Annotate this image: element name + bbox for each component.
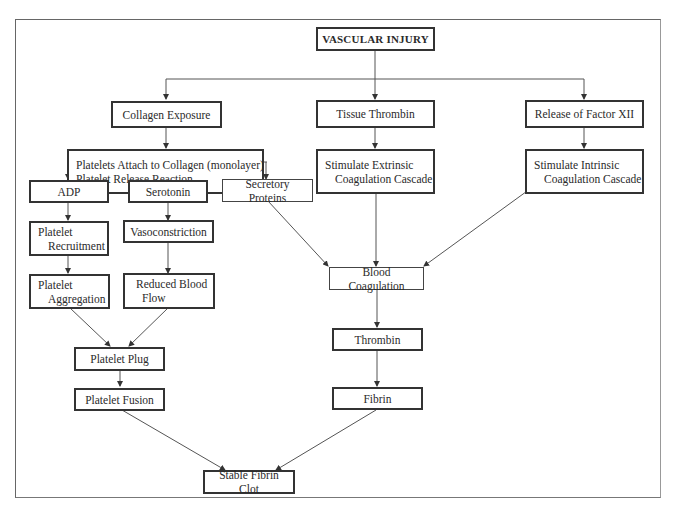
node-label-line2: Aggregation — [38, 292, 105, 306]
node-label: Vasoconstriction — [130, 225, 207, 239]
connector-lines — [0, 0, 673, 512]
node-thrombin: Thrombin — [332, 328, 423, 351]
node-adp: ADP — [29, 180, 109, 203]
node-label: Serotonin — [146, 185, 191, 199]
node-vasoconstriction: Vasoconstriction — [123, 220, 214, 243]
node-release-factor-xii: Release of Factor XII — [525, 100, 644, 128]
node-vascular-injury: VASCULAR INJURY — [316, 27, 435, 51]
node-blood-coagulation: Blood Coagulation — [329, 267, 424, 290]
node-label-line2: Coagulation Cascade — [325, 172, 432, 186]
node-secretory-proteins: Secretory Proteins — [222, 179, 313, 202]
node-label: ADP — [57, 185, 80, 199]
node-reduced-blood-flow: Reduced Blood Flow — [123, 273, 215, 309]
node-label-line1: Stimulate Intrinsic — [534, 158, 641, 172]
node-platelet-plug: Platelet Plug — [74, 347, 165, 371]
node-label: VASCULAR INJURY — [322, 32, 429, 46]
node-stable-fibrin-clot: Stable Fibrin Clot — [203, 470, 295, 494]
node-label-line1: Platelet — [38, 278, 105, 292]
node-fibrin: Fibrin — [332, 387, 423, 410]
node-platelet-fusion: Platelet Fusion — [74, 388, 165, 411]
node-label: Secretory Proteins — [227, 177, 308, 205]
node-label: Thrombin — [355, 333, 401, 347]
node-tissue-thrombin: Tissue Thrombin — [316, 100, 435, 128]
node-label: Platelet Plug — [90, 352, 148, 366]
node-label-line2: Recruitment — [38, 239, 105, 253]
node-collagen-exposure: Collagen Exposure — [111, 101, 222, 128]
node-label-line1: Stimulate Extrinsic — [325, 158, 432, 172]
node-label: Platelet Fusion — [85, 393, 154, 407]
node-stimulate-intrinsic: Stimulate Intrinsic Coagulation Cascade — [525, 149, 644, 194]
node-label-line2: Coagulation Cascade — [534, 172, 641, 186]
node-label-line1: Platelets Attach to Collagen (monolayer) — [76, 158, 264, 172]
node-label: Stable Fibrin Clot — [209, 468, 289, 496]
node-label: Release of Factor XII — [535, 107, 634, 121]
node-platelet-recruitment: Platelet Recruitment — [29, 221, 109, 256]
node-serotonin: Serotonin — [128, 180, 208, 203]
node-label: Fibrin — [363, 392, 391, 406]
node-label-line1: Reduced Blood — [132, 277, 207, 291]
node-platelet-aggregation: Platelet Aggregation — [29, 274, 110, 309]
node-stimulate-extrinsic: Stimulate Extrinsic Coagulation Cascade — [316, 149, 435, 194]
node-label: Tissue Thrombin — [336, 107, 414, 121]
node-label-line2: Flow — [132, 291, 207, 305]
node-label: Blood Coagulation — [334, 265, 419, 293]
node-label: Collagen Exposure — [123, 108, 211, 122]
node-label-line1: Platelet — [38, 225, 105, 239]
